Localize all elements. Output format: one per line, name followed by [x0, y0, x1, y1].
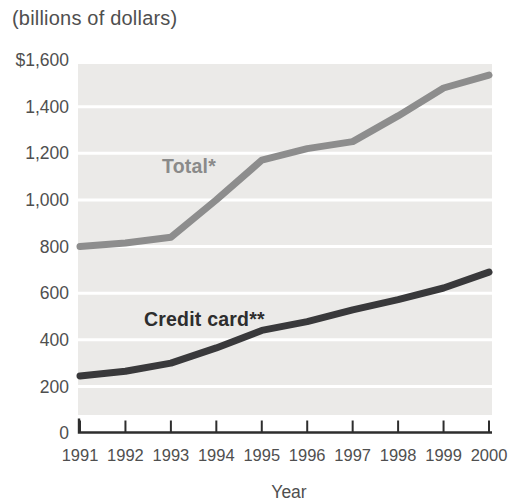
x-tick-label: 1998	[380, 446, 417, 464]
y-tick-label: $1,600	[15, 50, 69, 70]
y-tick-label: 400	[40, 330, 69, 350]
y-tick-label: 1,200	[25, 143, 69, 163]
chart-title: (billions of dollars)	[12, 7, 177, 30]
x-tick-label: 1996	[289, 446, 326, 464]
y-tick-label: 1,000	[25, 190, 69, 210]
x-tick-label: 1997	[334, 446, 371, 464]
x-tick-label: 1995	[243, 446, 280, 464]
y-tick-label: 0	[59, 423, 69, 443]
x-tick-label: 1994	[198, 446, 235, 464]
x-tick-label: 1993	[153, 446, 190, 464]
chart-figure: 02004006008001,0001,2001,400$1,600 19911…	[0, 0, 522, 504]
total-series-label: Total*	[162, 155, 216, 178]
x-axis-title: Year	[239, 482, 339, 503]
y-tick-label: 600	[40, 283, 69, 303]
y-tick-label: 1,400	[25, 97, 69, 117]
x-axis-tick-labels: 1991199219931994199519961997199819992000	[62, 446, 508, 464]
y-tick-label: 800	[40, 237, 69, 257]
credit-card-series-label: Credit card**	[144, 308, 265, 331]
y-axis-tick-labels: 02004006008001,0001,2001,400$1,600	[15, 50, 69, 443]
x-tick-label: 1999	[425, 446, 462, 464]
x-tick-label: 1992	[107, 446, 144, 464]
x-axis	[79, 419, 492, 433]
x-tick-label: 2000	[471, 446, 508, 464]
x-tick-label: 1991	[62, 446, 99, 464]
axis-line	[79, 419, 492, 433]
y-tick-label: 200	[40, 377, 69, 397]
line-chart: 02004006008001,0001,2001,400$1,600 19911…	[0, 0, 522, 504]
